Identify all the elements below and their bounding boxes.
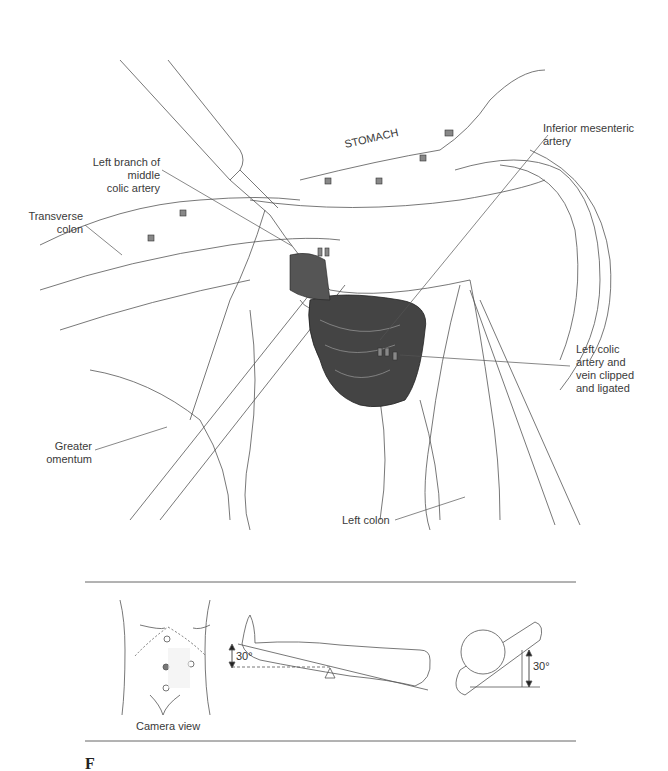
label-transverse-colon: Transverse colon <box>20 210 83 236</box>
label-middle-colic-artery: Left branch of middle colic artery <box>58 156 160 195</box>
label-left-colic-line4: and ligated <box>576 382 634 395</box>
torso-diagram <box>120 600 210 715</box>
label-inferior-mesenteric-artery: Inferior mesenteric artery <box>543 122 634 148</box>
tilt-position-diagram <box>229 615 430 690</box>
rotation-angle-label: 30° <box>533 660 550 672</box>
label-left-colic-line3: vein clipped <box>576 369 634 382</box>
label-omentum-line1: Greater <box>30 440 92 453</box>
label-middle-colic-line2: colic artery <box>58 182 160 195</box>
surgical-illustration <box>0 0 668 771</box>
label-transverse-line2: colon <box>20 223 83 236</box>
label-middle-colic-line1: Left branch of middle <box>58 156 160 182</box>
label-greater-omentum: Greater omentum <box>30 440 92 466</box>
label-ima-line1: Inferior mesenteric <box>543 122 634 135</box>
camera-view-caption: Camera view <box>136 720 200 732</box>
label-left-colic-artery-vein: Left colic artery and vein clipped and l… <box>576 343 634 395</box>
label-ima-line2: artery <box>543 135 634 148</box>
roll-position-diagram <box>456 622 542 695</box>
label-omentum-line2: omentum <box>30 453 92 466</box>
figure-caption-initial: F <box>85 755 95 771</box>
label-left-colic-line2: artery and <box>576 356 634 369</box>
label-left-colic-line1: Left colic <box>576 343 634 356</box>
dissection-window <box>309 295 426 407</box>
label-transverse-line1: Transverse <box>20 210 83 223</box>
label-left-colon: Left colon <box>342 514 390 527</box>
tilt-angle-label: 30° <box>236 650 253 662</box>
